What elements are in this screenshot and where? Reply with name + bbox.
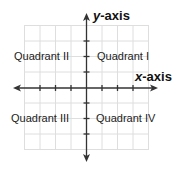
quadrant-iii-label: Quadrant III [11, 113, 69, 124]
quadrant-i-label: Quadrant I [97, 51, 149, 62]
x-axis-suffix: -axis [142, 69, 172, 84]
y-axis-suffix: -axis [100, 8, 130, 23]
quadrant-iv-label: Quadrant IV [96, 113, 155, 124]
y-axis-label: y-axis [93, 9, 130, 22]
coordinate-plane [0, 0, 179, 172]
x-axis-label: x-axis [135, 70, 172, 83]
quadrant-ii-label: Quadrant II [14, 51, 69, 62]
